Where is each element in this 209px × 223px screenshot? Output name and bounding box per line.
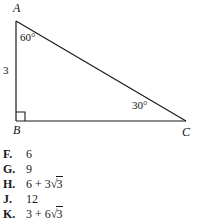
answer-choice-j-value: 12 — [26, 192, 38, 207]
answer-choice-g-key: G. — [3, 162, 15, 177]
answer-choices: F. 6 G. 9 H. 6 + 3√3 J. 12 K. 3 + 6√3 — [0, 147, 209, 222]
answer-choice-k-value: 3 + 6√3 — [26, 207, 63, 222]
vertex-label-a: A — [13, 2, 20, 15]
answer-choice-f-key: F. — [3, 147, 12, 162]
vertex-label-b: B — [13, 124, 20, 137]
side-length-label-ab: 3 — [3, 64, 9, 76]
answer-choice-k-prefix: 3 + 6 — [26, 207, 51, 221]
answer-choice-j[interactable]: J. 12 — [0, 192, 209, 207]
answer-choice-h[interactable]: H. 6 + 3√3 — [0, 177, 209, 192]
triangle-drawing — [0, 0, 209, 145]
right-angle-marker-b — [16, 112, 25, 121]
answer-choice-g[interactable]: G. 9 — [0, 162, 209, 177]
answer-choice-k[interactable]: K. 3 + 6√3 — [0, 207, 209, 222]
answer-choice-h-value: 6 + 3√3 — [26, 177, 63, 192]
answer-choice-k-radicand: 3 — [56, 206, 63, 221]
answer-choice-h-radicand: 3 — [56, 176, 63, 191]
geometry-figure: A B C 60° 30° 3 — [0, 0, 209, 145]
answer-choice-f[interactable]: F. 6 — [0, 147, 209, 162]
vertex-label-c: C — [182, 126, 190, 139]
answer-choice-h-prefix: 6 + 3 — [26, 177, 51, 191]
angle-label-c-30: 30° — [132, 99, 147, 111]
answer-choice-f-value: 6 — [26, 147, 32, 162]
answer-choice-h-key: H. — [3, 177, 15, 192]
triangle-side-ac-hypotenuse — [16, 21, 186, 121]
answer-choice-j-key: J. — [3, 192, 12, 207]
angle-label-a-60: 60° — [20, 31, 35, 43]
answer-choice-g-value: 9 — [26, 162, 32, 177]
answer-choice-k-key: K. — [3, 207, 15, 222]
